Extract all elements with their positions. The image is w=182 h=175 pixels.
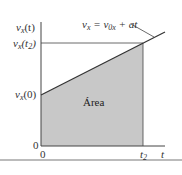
y-axis-label: vx(t) bbox=[16, 22, 35, 35]
equation-label: vx = v0x + at bbox=[82, 19, 137, 32]
x-tick-t2: t2 bbox=[140, 149, 147, 162]
y-tick-0: 0 bbox=[33, 140, 39, 151]
shaded-area bbox=[41, 43, 143, 146]
y-tick-vx-0: vx(0) bbox=[15, 89, 36, 102]
x-axis-label: t bbox=[161, 149, 164, 160]
y-tick-vx-t2: vx(t2) bbox=[13, 38, 36, 51]
area-label: Área bbox=[83, 97, 104, 108]
x-tick-0: 0 bbox=[40, 149, 46, 160]
